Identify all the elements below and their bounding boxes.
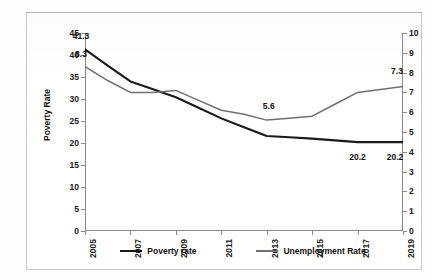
chart-root: 051015202530354045 012345678910 20052007… bbox=[0, 0, 432, 280]
right-tick-label: 3 bbox=[409, 167, 414, 176]
series-lines bbox=[85, 33, 403, 231]
right-tick-label: 1 bbox=[409, 207, 414, 216]
left-tick-label: 20 bbox=[70, 139, 79, 148]
data-label: 7.3 bbox=[391, 67, 403, 76]
left-tick-label: 30 bbox=[70, 95, 79, 104]
left-tick-label: 15 bbox=[70, 161, 79, 170]
data-label: 20.2 bbox=[349, 153, 366, 162]
right-tick-mark bbox=[403, 92, 407, 93]
right-tick-label: 4 bbox=[409, 148, 414, 157]
left-tick-label: 25 bbox=[70, 117, 79, 126]
right-tick-mark bbox=[403, 73, 407, 74]
right-tick-label: 8 bbox=[409, 68, 414, 77]
right-tick-mark bbox=[403, 132, 407, 133]
right-tick-label: 7 bbox=[409, 88, 414, 97]
legend-label: Poverty rate bbox=[147, 247, 196, 256]
legend-line-swatch bbox=[256, 250, 278, 252]
right-tick-mark bbox=[403, 191, 407, 192]
x-tick-mark bbox=[176, 231, 177, 235]
left-tick-label: 10 bbox=[70, 183, 79, 192]
right-tick-label: 5 bbox=[409, 128, 414, 137]
x-tick-mark bbox=[403, 231, 404, 235]
chart-legend: Poverty rateUnemployment Rate bbox=[85, 243, 401, 259]
right-tick-mark bbox=[403, 53, 407, 54]
data-label: 5.6 bbox=[263, 102, 275, 111]
series-line-poverty-rate bbox=[85, 49, 403, 142]
x-tick-mark bbox=[221, 231, 222, 235]
data-label: 8.3 bbox=[75, 49, 87, 58]
x-tick-mark bbox=[312, 231, 313, 235]
legend-label: Unemployment Rate bbox=[283, 247, 365, 256]
right-tick-label: 9 bbox=[409, 49, 414, 58]
right-tick-mark bbox=[403, 172, 407, 173]
plot-area: 051015202530354045 012345678910 20052007… bbox=[85, 33, 403, 231]
right-tick-label: 6 bbox=[409, 108, 414, 117]
legend-item[interactable]: Unemployment Rate bbox=[256, 247, 365, 256]
x-tick-mark bbox=[130, 231, 131, 235]
x-tick-mark bbox=[267, 231, 268, 235]
right-tick-mark bbox=[403, 33, 407, 34]
right-tick-label: 10 bbox=[409, 29, 418, 38]
right-tick-mark bbox=[403, 112, 407, 113]
right-tick-label: 0 bbox=[409, 227, 414, 236]
series-line-unemployment-rate bbox=[85, 67, 403, 120]
data-label: 20.2 bbox=[387, 153, 404, 162]
left-axis-title: Poverty Rate bbox=[43, 89, 52, 141]
x-tick-mark bbox=[85, 231, 86, 235]
legend-line-swatch bbox=[120, 250, 142, 252]
left-tick-label: 5 bbox=[74, 205, 79, 214]
x-tick-label: 2019 bbox=[407, 239, 416, 258]
x-tick-mark bbox=[358, 231, 359, 235]
right-tick-label: 2 bbox=[409, 187, 414, 196]
right-tick-mark bbox=[403, 211, 407, 212]
data-label: 41.3 bbox=[73, 32, 90, 41]
figure-frame: 051015202530354045 012345678910 20052007… bbox=[26, 12, 422, 270]
left-tick-label: 35 bbox=[70, 73, 79, 82]
legend-item[interactable]: Poverty rate bbox=[120, 247, 196, 256]
left-tick-label: 0 bbox=[74, 227, 79, 236]
